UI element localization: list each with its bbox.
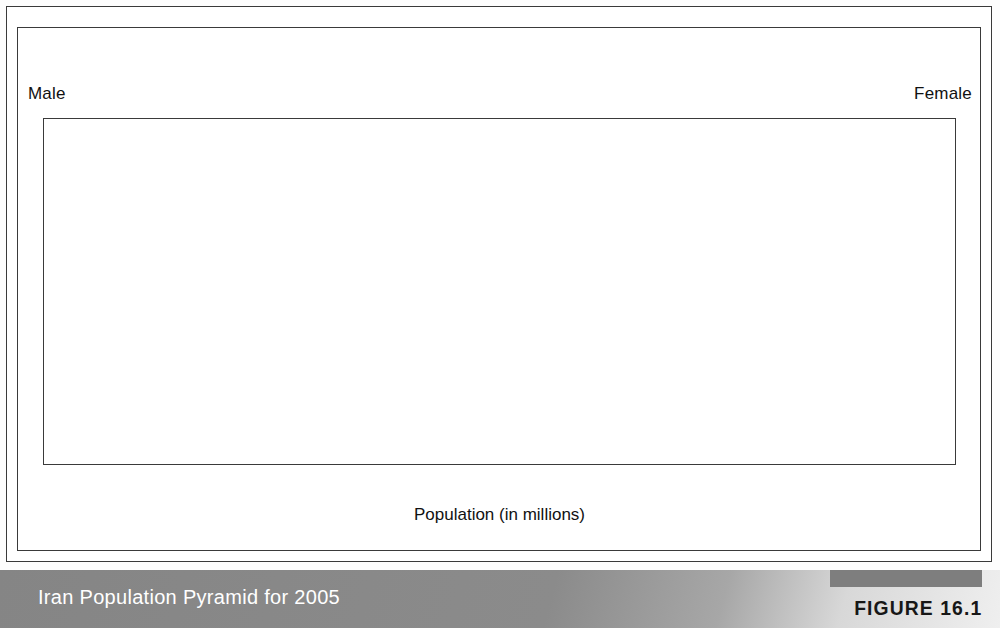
- figure-number-label: FIGURE 16.1: [854, 596, 982, 620]
- figure-caption-band: Iran Population Pyramid for 2005 FIGURE …: [0, 570, 1000, 628]
- figure-caption-text: Iran Population Pyramid for 2005: [38, 586, 340, 609]
- male-axis-label: Male: [28, 84, 66, 104]
- bars-container: [44, 119, 955, 464]
- x-axis: [43, 465, 956, 505]
- female-axis-label: Female: [914, 84, 972, 104]
- x-axis-title: Population (in millions): [43, 505, 956, 525]
- figure-root: Male Female Population (in millions) Ira…: [0, 0, 1000, 628]
- figure-number-tab: [830, 570, 982, 587]
- chart-plot-area: [43, 118, 956, 465]
